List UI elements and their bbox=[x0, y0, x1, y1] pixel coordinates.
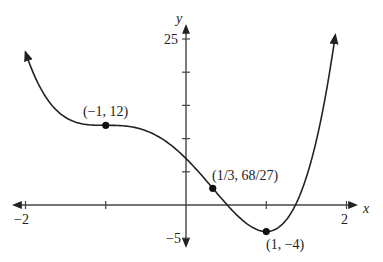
y-max-label: 25 bbox=[164, 32, 178, 47]
y-axis-label: y bbox=[174, 11, 183, 26]
y-min-label: −5 bbox=[166, 231, 181, 246]
key-point bbox=[263, 228, 270, 235]
point-label-local-flat: (−1, 12) bbox=[83, 104, 129, 120]
key-point bbox=[209, 185, 216, 192]
x-axis-label: x bbox=[362, 201, 370, 216]
function-graph: x y −2 2 25 −5 (−1, 12) (1/3, 68/27) (1,… bbox=[0, 0, 383, 262]
key-point bbox=[102, 122, 109, 129]
point-label-minimum: (1, −4) bbox=[266, 237, 305, 253]
point-label-inflection: (1/3, 68/27) bbox=[212, 168, 278, 184]
x-min-label: −2 bbox=[14, 212, 29, 227]
function-curve bbox=[26, 35, 336, 231]
x-max-label: 2 bbox=[341, 212, 348, 227]
